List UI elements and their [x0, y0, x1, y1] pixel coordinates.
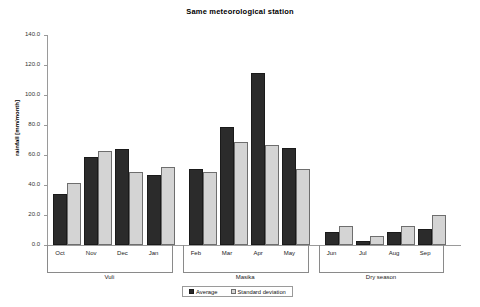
bar-average [189, 169, 203, 245]
bar-standard-deviation [401, 226, 415, 246]
x-axis-label-jan: Jan [132, 250, 176, 256]
bar-average [53, 194, 67, 245]
season-underline [183, 272, 308, 273]
x-axis-label-sep: Sep [403, 250, 447, 256]
bar-standard-deviation [339, 226, 353, 246]
bar-standard-deviation [265, 145, 279, 245]
season-label-dry-season: Dry season [319, 274, 444, 280]
bar-average [251, 73, 265, 245]
legend-label-standard-deviation: Standard deviation [238, 289, 286, 295]
y-axis-tick-label: 100.0 [7, 91, 40, 97]
y-axis-tick-label: 140.0 [7, 31, 40, 37]
bar-average [220, 127, 234, 246]
plot-area: 0.020.040.060.080.0100.0120.0140.0 [47, 35, 460, 245]
season-underline [47, 272, 172, 273]
bar-average [147, 175, 161, 246]
bar-standard-deviation [98, 151, 112, 246]
y-axis-tick-label: 120.0 [7, 61, 40, 67]
season-separator [308, 245, 309, 273]
y-axis-tick-label: 0.0 [7, 241, 40, 247]
y-axis-label: rainfall [mm/month] [14, 73, 20, 183]
season-separator [319, 245, 320, 273]
season-separator [172, 245, 173, 273]
x-axis-line [47, 245, 461, 246]
chart-legend: Average Standard deviation [182, 286, 293, 297]
bar-standard-deviation [432, 215, 446, 245]
y-axis-tick-label: 80.0 [7, 121, 40, 127]
bar-average [325, 232, 339, 245]
bar-average [84, 157, 98, 246]
legend-item-average: Average [189, 289, 218, 295]
bar-standard-deviation [234, 142, 248, 246]
bar-average [418, 229, 432, 246]
bar-average [356, 241, 370, 246]
legend-item-standard-deviation: Standard deviation [231, 289, 286, 295]
y-axis-tick-label: 20.0 [7, 211, 40, 217]
legend-swatch-average-icon [189, 289, 194, 294]
x-axis-label-may: May [267, 250, 311, 256]
bar-standard-deviation [161, 167, 175, 245]
bar-standard-deviation [370, 236, 384, 245]
bar-standard-deviation [67, 183, 81, 245]
season-label-vuli: Vuli [47, 274, 172, 280]
season-underline [319, 272, 444, 273]
bars-layer [47, 35, 460, 245]
bar-standard-deviation [129, 172, 143, 246]
season-separator [47, 245, 48, 273]
bar-average [115, 149, 129, 245]
bar-average [282, 148, 296, 246]
season-label-masika: Masika [183, 274, 308, 280]
legend-label-average: Average [196, 289, 218, 295]
y-axis-tick-label: 40.0 [7, 181, 40, 187]
legend-swatch-standard-deviation-icon [231, 289, 236, 294]
y-axis-tick-label: 60.0 [7, 151, 40, 157]
chart-container: Same meteorological station rainfall [mm… [0, 0, 480, 307]
bar-average [387, 232, 401, 245]
bar-standard-deviation [203, 172, 217, 245]
season-separator [443, 245, 444, 273]
chart-title: Same meteorological station [0, 7, 480, 16]
bar-standard-deviation [296, 169, 310, 245]
season-separator [183, 245, 184, 273]
